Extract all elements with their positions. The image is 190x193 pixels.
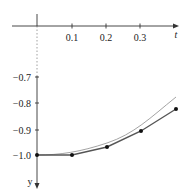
x-axis-arrow-icon xyxy=(173,24,179,29)
y-tick-label: −1.0 xyxy=(13,150,31,161)
data-point xyxy=(35,153,39,157)
data-point xyxy=(70,153,74,157)
data-point xyxy=(105,145,109,149)
x-tick-label: 0.2 xyxy=(100,32,113,43)
y-tick-label: −0.7 xyxy=(13,72,31,83)
x-axis-label: t xyxy=(175,29,178,40)
data-point xyxy=(139,129,143,133)
x-tick-label: 0.3 xyxy=(134,32,147,43)
chart: 0.1 0.2 0.3 t −0.7 −0.8 −0.9 −1.0 y xyxy=(0,0,190,193)
y-axis-arrow-icon xyxy=(35,183,40,189)
y-tick-label: −0.9 xyxy=(13,125,31,136)
y-tick-label: −0.8 xyxy=(13,98,31,109)
y-axis-label: y xyxy=(28,176,33,187)
x-tick-label: 0.1 xyxy=(66,32,79,43)
data-point xyxy=(174,107,178,111)
